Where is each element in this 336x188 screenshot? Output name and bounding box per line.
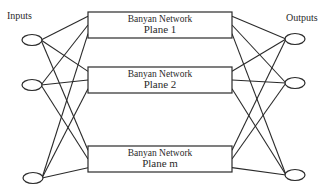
input-port-icon (22, 35, 42, 46)
plane-box: Banyan NetworkPlane m (88, 146, 232, 172)
output-port-icon (285, 78, 305, 89)
plane-name: Plane 1 (144, 23, 177, 35)
outputs-label: Outputs (286, 12, 318, 23)
plane-name: Plane 2 (144, 78, 177, 90)
input-port-icon (23, 173, 43, 184)
input-to-plane-line (41, 16, 88, 40)
plane-to-output-line (232, 80, 286, 83)
plane-name: Plane m (142, 157, 178, 169)
network-planes: Banyan NetworkPlane 1Banyan NetworkPlane… (88, 12, 232, 172)
input-nodes (22, 35, 43, 184)
input-to-plane-line (42, 34, 88, 178)
plane-to-output-line (232, 16, 286, 39)
plane-box: Banyan NetworkPlane 1 (88, 12, 232, 38)
input-to-plane-line (42, 168, 88, 178)
output-nodes (285, 34, 305, 181)
plane-to-output-line (232, 168, 286, 175)
output-port-icon (285, 170, 305, 181)
input-to-plane-line (41, 80, 88, 85)
banyan-network-diagram: Banyan NetworkPlane 1Banyan NetworkPlane… (0, 0, 336, 188)
plane-box: Banyan NetworkPlane 2 (88, 67, 232, 93)
input-port-icon (22, 80, 42, 91)
inputs-label: Inputs (7, 10, 32, 21)
plane-to-output-line (232, 89, 286, 175)
output-port-icon (285, 34, 305, 45)
